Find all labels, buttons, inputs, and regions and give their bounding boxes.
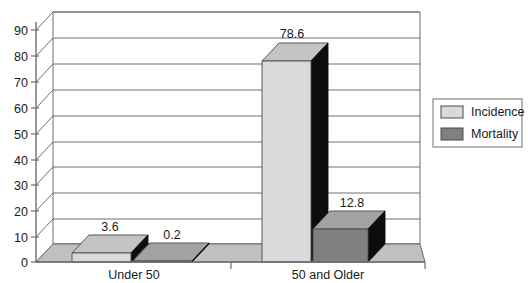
value-label-older-mortality: 12.8 (340, 196, 364, 210)
y-tick-label-20: 20 (14, 205, 28, 219)
y-tick-label-60: 60 (14, 102, 28, 116)
y-tick-label-30: 30 (14, 179, 28, 193)
y-tick-label-0: 0 (21, 256, 28, 270)
y-tick-label-70: 70 (14, 76, 28, 90)
chart-container: 90 80 70 60 50 40 30 20 10 0 (0, 0, 528, 283)
y-tick-labels: 90 80 70 60 50 40 30 20 10 0 (14, 24, 28, 270)
y-axis (31, 22, 39, 262)
y-tick-label-90: 90 (14, 24, 28, 38)
bar-older-mortality (313, 211, 385, 262)
legend-swatch-mortality (441, 128, 463, 140)
x-axis (36, 262, 425, 269)
y-tick-label-80: 80 (14, 50, 28, 64)
legend-item-incidence[interactable]: Incidence (441, 105, 525, 119)
x-tick-label-50-and-older: 50 and Older (292, 268, 364, 282)
legend-label-incidence: Incidence (471, 105, 525, 119)
y-tick-label-50: 50 (14, 128, 28, 142)
bar-chart-3d: 90 80 70 60 50 40 30 20 10 0 (0, 0, 528, 283)
plot-back-wall (53, 12, 420, 244)
legend: Incidence Mortality (433, 99, 525, 147)
legend-label-mortality: Mortality (471, 127, 519, 141)
legend-swatch-incidence (441, 106, 463, 118)
legend-item-mortality[interactable]: Mortality (441, 127, 519, 141)
value-label-older-incidence: 78.6 (280, 27, 304, 41)
y-tick-label-40: 40 (14, 154, 28, 168)
y-tick-label-10: 10 (14, 231, 28, 245)
value-label-under50-mortality: 0.2 (163, 228, 180, 242)
x-tick-label-under-50: Under 50 (108, 268, 159, 282)
value-label-under50-incidence: 3.6 (101, 220, 118, 234)
x-tick-labels: Under 50 50 and Older (108, 268, 364, 282)
